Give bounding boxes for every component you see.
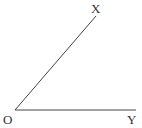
label-point-o: O xyxy=(3,112,12,127)
angle-diagram: X O Y xyxy=(0,0,142,128)
label-point-y: Y xyxy=(127,112,137,127)
label-point-x: X xyxy=(91,1,101,16)
ray-ox xyxy=(15,16,96,110)
